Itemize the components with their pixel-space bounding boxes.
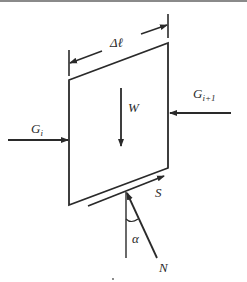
slice-diagram: Δℓ W Gi Gi+1 S N α: [0, 0, 247, 282]
normal-label: N: [158, 260, 169, 275]
right-force-label: Gi+1: [193, 86, 215, 103]
angle-label: α: [132, 231, 140, 246]
angle-arc: [126, 219, 138, 222]
shear-label: S: [155, 185, 162, 200]
stray-dot: [112, 278, 114, 280]
width-label: Δℓ: [109, 35, 124, 50]
dimension-arrow-left: [70, 51, 102, 63]
weight-label: W: [128, 100, 140, 115]
left-force-label: Gi: [31, 121, 43, 138]
normal-force-arrow: [127, 193, 157, 258]
dimension-arrow-right: [141, 25, 167, 34]
